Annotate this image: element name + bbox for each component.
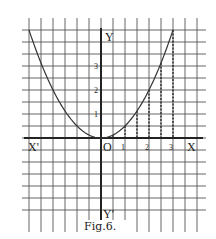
origin-label: O [103,140,112,154]
x-neg-axis-label: X' [28,140,39,154]
y-neg-axis-label: Y' [103,207,114,221]
y-tick-2: 2 [94,86,98,95]
x-axis-label: X [187,140,196,154]
parabola-figure: Y Y' X X' O 1 2 3 1 2 3 Fig.6. [0,0,216,239]
y-tick-3: 3 [94,62,98,71]
dashed-ordinates [113,30,173,138]
x-tick-1: 1 [121,143,125,152]
figure-caption: Fig.6. [84,220,116,233]
x-tick-3: 3 [169,143,173,152]
y-tick-1: 1 [94,110,98,119]
x-tick-2: 2 [145,143,149,152]
grid [22,18,206,232]
y-axis-label: Y [105,30,114,44]
